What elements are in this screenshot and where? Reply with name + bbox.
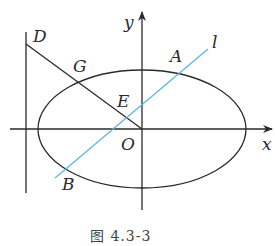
ellipse-diagram: y x D G A l E O B 图 4.3-3 [0, 0, 275, 246]
label-l: l [212, 32, 217, 52]
label-x: x [262, 134, 272, 154]
label-E: E [116, 91, 130, 111]
label-O: O [121, 134, 135, 154]
label-D: D [32, 26, 47, 46]
label-A: A [168, 46, 182, 66]
label-y: y [123, 12, 134, 32]
label-G: G [73, 56, 87, 76]
label-B: B [61, 174, 75, 194]
figure-caption: 图 4.3-3 [90, 228, 151, 244]
